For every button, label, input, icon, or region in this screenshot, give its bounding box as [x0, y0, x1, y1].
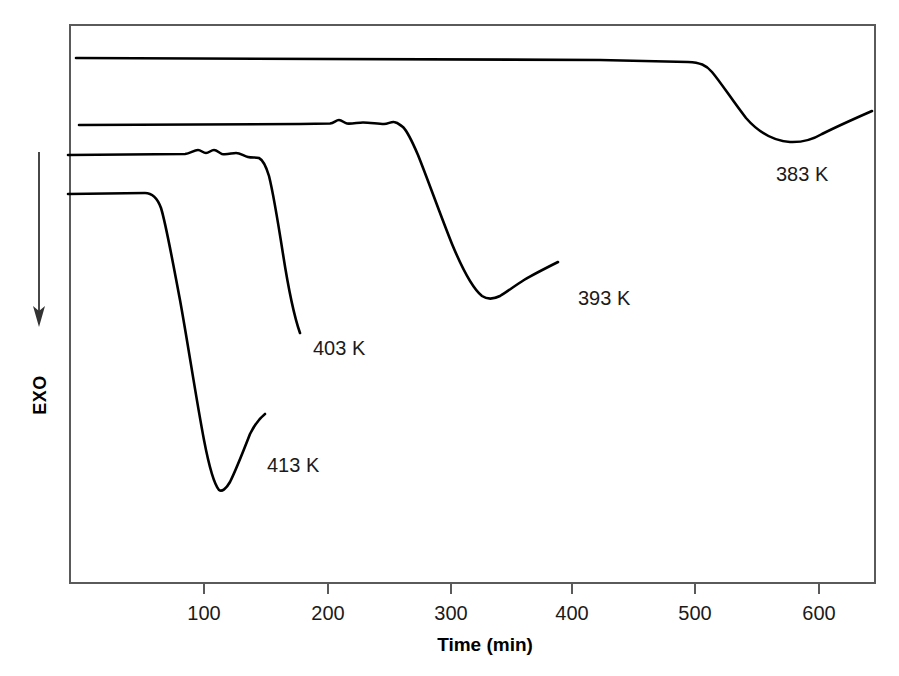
x-axis-title: Time (min) [437, 634, 533, 655]
curve-label-383k: 383 K [776, 163, 829, 185]
x-tick-label-600: 600 [802, 602, 835, 624]
curve-383k [76, 58, 872, 142]
plot-frame [70, 25, 875, 583]
curve-label-413k: 413 K [267, 454, 320, 476]
x-tick-label-400: 400 [555, 602, 588, 624]
curve-413k [68, 193, 265, 491]
curve-label-403k: 403 K [313, 337, 366, 359]
curve-label-393k: 393 K [578, 287, 631, 309]
x-tick-label-100: 100 [187, 602, 220, 624]
x-tick-label-500: 500 [678, 602, 711, 624]
curve-403k [68, 150, 300, 333]
chart-page: 100 200 300 400 500 600 Time (min) EXO 3… [0, 0, 899, 676]
dsc-isothermal-chart: 100 200 300 400 500 600 Time (min) EXO 3… [0, 0, 899, 676]
x-tick-label-200: 200 [311, 602, 344, 624]
x-axis-ticks [204, 583, 819, 594]
x-axis-tick-labels: 100 200 300 400 500 600 [187, 602, 835, 624]
exo-direction-arrow-icon [33, 152, 45, 327]
curve-393k [79, 120, 558, 299]
x-tick-label-300: 300 [434, 602, 467, 624]
y-axis-title-exo: EXO [30, 375, 50, 415]
